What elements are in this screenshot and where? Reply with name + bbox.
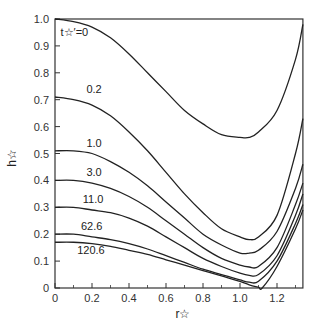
y-axis-title: h☆ <box>5 149 19 167</box>
x-tick-label: 0 <box>52 292 58 304</box>
x-tick-label: 1.0 <box>232 292 247 304</box>
chart: 00.20.40.60.81.01.2 00.10.20.30.40.50.60… <box>0 0 319 329</box>
y-tick-label: 0.4 <box>34 174 49 186</box>
y-tick-label: 0.1 <box>34 255 49 267</box>
y-tick-label: 0.6 <box>34 121 49 133</box>
y-tick-label: 0 <box>43 282 49 294</box>
y-tick-label: 0.9 <box>34 40 49 52</box>
x-tick-label: 0.2 <box>84 292 99 304</box>
y-tick-label: 0.2 <box>34 228 49 240</box>
curve-label: 1.0 <box>86 137 101 149</box>
y-tick-label: 0.7 <box>34 94 49 106</box>
x-tick-label: 1.2 <box>269 292 284 304</box>
x-axis-title: r☆ <box>176 307 191 321</box>
x-tick-label: 0.8 <box>195 292 210 304</box>
y-tick-label: 0.8 <box>34 67 49 79</box>
curve-t0 <box>55 19 303 138</box>
y-axis: 00.10.20.30.40.50.60.70.80.91.0 <box>34 13 60 294</box>
curve-label: 120.6 <box>77 244 105 256</box>
x-tick-label: 0.6 <box>158 292 173 304</box>
curve-label: 62.6 <box>81 220 102 232</box>
curve-label: t☆′=0 <box>61 26 89 38</box>
x-axis: 00.20.40.60.81.01.2 <box>52 283 296 304</box>
curve-labels: t☆′=00.21.03.011.062.6120.6 <box>61 26 105 256</box>
y-tick-label: 0.5 <box>34 148 49 160</box>
curve-label: 3.0 <box>86 166 101 178</box>
x-tick-label: 0.4 <box>121 292 136 304</box>
curve-label: 11.0 <box>83 193 104 205</box>
curve-label: 0.2 <box>86 83 101 95</box>
y-tick-label: 0.3 <box>34 201 49 213</box>
y-tick-label: 1.0 <box>34 13 49 25</box>
